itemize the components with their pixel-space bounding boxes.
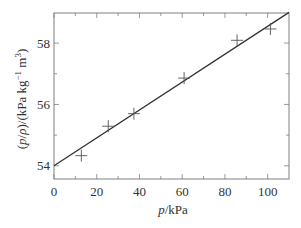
- y-tick-label: 56: [37, 97, 51, 112]
- x-tick-label: 100: [258, 184, 278, 199]
- x-axis-label: p/kPa: [157, 202, 188, 217]
- plot-border: [54, 13, 289, 179]
- x-tick-label: 80: [218, 184, 231, 199]
- data-points: [75, 23, 276, 162]
- plus-marker-icon: [102, 120, 114, 132]
- x-tick-label: 40: [133, 184, 146, 199]
- plus-marker-icon: [264, 23, 276, 35]
- plus-marker-icon: [178, 72, 190, 84]
- y-axis-label: (p/ρ)/(kPa kg−1 m3): [13, 49, 29, 150]
- x-tick-label: 60: [176, 184, 189, 199]
- y-tick-label: 58: [37, 36, 50, 51]
- x-tick-label: 0: [51, 184, 58, 199]
- y-tick-label: 54: [37, 158, 51, 173]
- axis-tick-labels: 020406080100545658: [37, 36, 277, 199]
- plus-marker-icon: [231, 34, 243, 46]
- chart-canvas: 020406080100545658 p/kPa (p/ρ)/(kPa kg−1…: [0, 0, 301, 228]
- fit-line-path: [54, 12, 289, 165]
- x-tick-label: 20: [90, 184, 103, 199]
- plus-marker-icon: [128, 108, 140, 120]
- plus-marker-icon: [75, 150, 87, 162]
- axis-ticks: [54, 13, 289, 179]
- plot-frame: [54, 13, 289, 179]
- fit-line: [54, 12, 289, 165]
